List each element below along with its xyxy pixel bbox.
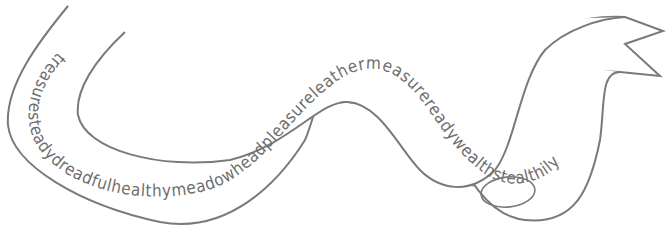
word-ribbon-puzzle: treasuresteadydreadfulhealthymeadowheadp…	[0, 0, 672, 233]
